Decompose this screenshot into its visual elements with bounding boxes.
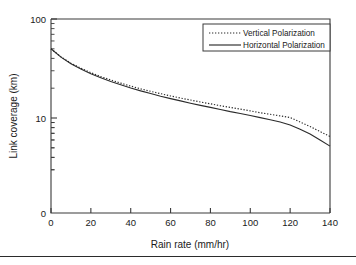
figure-container: 020406080100120140 100100 Rain rate (mm/…	[0, 0, 356, 265]
x-tick-label: 20	[86, 217, 97, 228]
y-axis-title: Link coverage (km)	[8, 73, 19, 158]
y-tick-label: 100	[30, 14, 46, 25]
x-axis-title: Rain rate (mm/hr)	[151, 239, 229, 250]
y-tick-labels: 100100	[30, 14, 46, 219]
x-tick-label: 0	[48, 217, 53, 228]
x-tick-label: 60	[165, 217, 176, 228]
x-tick-labels: 020406080100120140	[48, 217, 338, 228]
x-tick-label: 100	[242, 217, 258, 228]
y-tick-label: 0	[41, 208, 46, 219]
x-tick-label: 80	[205, 217, 216, 228]
footer-divider	[0, 256, 356, 257]
y-tick-label: 10	[35, 113, 46, 124]
chart-curves	[51, 49, 330, 146]
x-tick-label: 40	[125, 217, 136, 228]
series-vertical-polarization	[51, 49, 330, 137]
legend-label: Horizontal Polarization	[243, 41, 325, 50]
x-tick-label: 140	[322, 217, 338, 228]
legend-label: Vertical Polarization	[243, 29, 315, 38]
link-coverage-chart: 020406080100120140 100100 Rain rate (mm/…	[0, 0, 356, 265]
chart-legend[interactable]: Vertical PolarizationHorizontal Polariza…	[203, 24, 330, 51]
x-tick-label: 120	[282, 217, 298, 228]
series-horizontal-polarization	[51, 49, 330, 146]
